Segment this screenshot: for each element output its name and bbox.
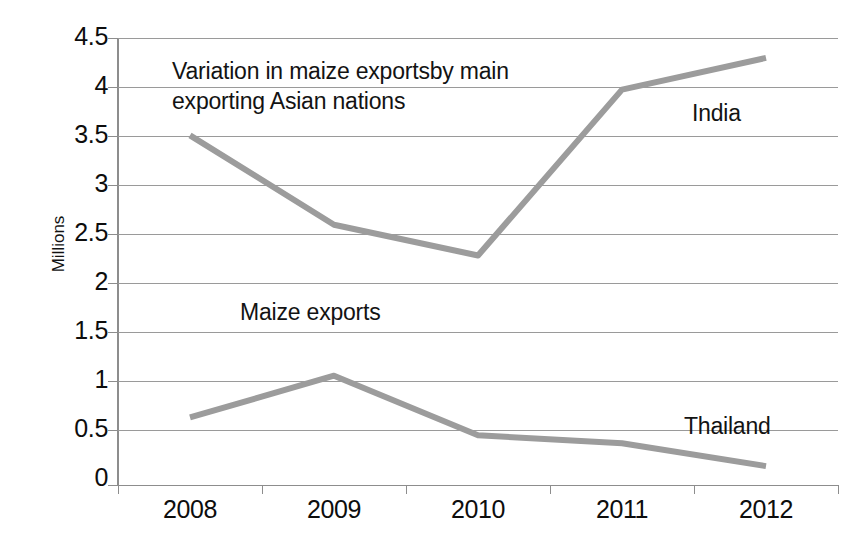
x-tick-label-2010: 2010 (403, 497, 553, 522)
y-axis-tick (108, 430, 118, 431)
y-axis-tick (108, 136, 118, 137)
x-tick-label-2008: 2008 (115, 497, 265, 522)
y-axis-tick (108, 381, 118, 382)
x-axis-tick (694, 485, 695, 494)
y-axis-tick (108, 234, 118, 235)
y-tick-label: 3.5 (44, 122, 108, 147)
series-label-india: India (692, 98, 741, 128)
x-tick-label-2009: 2009 (259, 497, 409, 522)
series-line-thailand (190, 376, 766, 466)
y-tick-label: 4.5 (44, 24, 108, 49)
x-axis-line (118, 485, 838, 486)
y-axis-tick-labels: 4.5 4 3.5 3 2.5 2 1.5 1 0.5 0 (38, 0, 108, 552)
x-axis-tick (262, 485, 263, 494)
y-tick-label: 0 (44, 465, 108, 490)
y-axis-tick (108, 38, 118, 39)
y-tick-label: 2.5 (44, 220, 108, 245)
y-axis-tick (108, 185, 118, 186)
x-tick-label-2011: 2011 (547, 497, 697, 522)
line-chart: Millions 4.5 4 3.5 3 2.5 2 1.5 1 0.5 0 (0, 0, 848, 552)
x-axis-tick (406, 485, 407, 494)
chart-title-line-1: Variation in maize exportsby main (172, 56, 509, 86)
series-label-thailand: Thailand (684, 411, 771, 441)
x-axis-tick (550, 485, 551, 494)
y-axis-tick (108, 283, 118, 284)
y-tick-label: 3 (44, 171, 108, 196)
annotation-maize-exports: Maize exports (240, 297, 381, 327)
x-axis-tick (838, 485, 839, 494)
y-tick-label: 1 (44, 367, 108, 392)
y-tick-label: 1.5 (44, 318, 108, 343)
chart-title-annotation: Variation in maize exportsby main export… (172, 56, 509, 116)
x-tick-label-2012: 2012 (691, 497, 841, 522)
y-axis-tick (108, 332, 118, 333)
y-axis-tick (108, 87, 118, 88)
y-tick-label: 0.5 (44, 416, 108, 441)
y-axis-tick (108, 485, 118, 486)
y-tick-label: 4 (44, 73, 108, 98)
y-tick-label: 2 (44, 269, 108, 294)
x-axis-tick (118, 485, 119, 494)
chart-title-line-2: exporting Asian nations (172, 86, 509, 116)
